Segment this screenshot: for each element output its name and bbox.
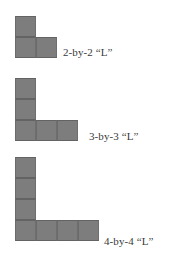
square-cell xyxy=(36,120,57,141)
square-cell xyxy=(15,157,36,178)
square-cell xyxy=(15,120,36,141)
square-cell xyxy=(15,220,36,241)
figure-label-l-4-by-4: 4-by-4 “L” xyxy=(104,235,154,247)
shape-l-4-by-4 xyxy=(15,157,100,242)
square-cell xyxy=(78,220,99,241)
l-shapes-diagram: 2-by-2 “L” 3-by-3 “L” 4-by-4 “L” xyxy=(0,0,176,262)
square-cell xyxy=(57,120,78,141)
shape-l-2-by-2 xyxy=(15,16,58,59)
square-cell xyxy=(15,16,36,37)
square-cell xyxy=(36,220,57,241)
square-cell xyxy=(15,178,36,199)
square-cell xyxy=(57,220,78,241)
square-cell xyxy=(15,37,36,58)
square-cell xyxy=(15,199,36,220)
figure-label-l-3-by-3: 3-by-3 “L” xyxy=(89,130,139,142)
square-cell xyxy=(15,99,36,120)
square-cell xyxy=(36,37,57,58)
figure-label-l-2-by-2: 2-by-2 “L” xyxy=(63,46,113,58)
shape-l-3-by-3 xyxy=(15,78,79,142)
square-cell xyxy=(15,78,36,99)
